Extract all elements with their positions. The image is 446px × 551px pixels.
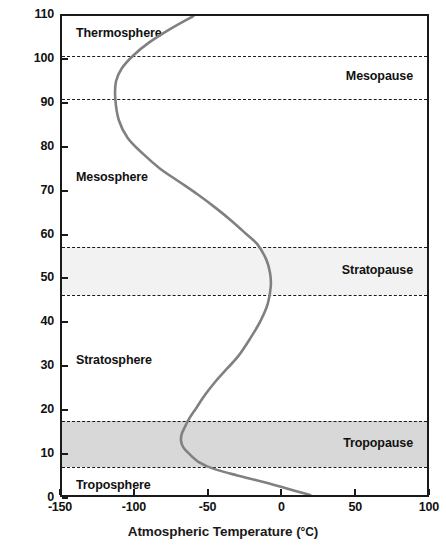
- y-tick-label: 110: [20, 7, 54, 21]
- y-tick-label: 80: [20, 139, 54, 153]
- atmospheric-temperature-chart: Height above earth's surface (km) 010203…: [0, 0, 446, 551]
- temperature-curve-svg: [62, 16, 427, 495]
- x-tick-label: -50: [178, 500, 238, 514]
- x-tick-mark: [354, 489, 356, 495]
- x-tick-label: 0: [251, 500, 311, 514]
- y-tick-label: 30: [20, 358, 54, 372]
- x-tick-mark: [59, 489, 61, 495]
- x-axis-title-text: Atmospheric Temperature (: [128, 524, 301, 539]
- plot-area: ThermosphereMesopauseMesosphereStratopau…: [60, 14, 429, 497]
- x-axis-title: Atmospheric Temperature (°C): [0, 524, 446, 539]
- x-tick-label: 100: [399, 500, 446, 514]
- y-tick-mark: [62, 409, 68, 411]
- x-axis-title-close: ): [314, 524, 318, 539]
- y-tick-label: 60: [20, 227, 54, 241]
- y-tick-label: 20: [20, 402, 54, 416]
- x-tick-mark: [133, 489, 135, 495]
- y-tick-mark: [62, 497, 68, 499]
- y-tick-label: 70: [20, 183, 54, 197]
- y-tick-mark: [62, 14, 68, 16]
- y-tick-label: 40: [20, 314, 54, 328]
- x-axis-unit: °C: [301, 525, 314, 539]
- y-tick-label: 50: [20, 270, 54, 284]
- y-tick-mark: [62, 234, 68, 236]
- y-tick-mark: [62, 102, 68, 104]
- y-tick-label: 90: [20, 95, 54, 109]
- y-tick-mark: [62, 277, 68, 279]
- y-tick-mark: [62, 58, 68, 60]
- y-tick-mark: [62, 190, 68, 192]
- x-tick-label: -150: [30, 500, 90, 514]
- y-tick-label: 10: [20, 446, 54, 460]
- y-tick-mark: [62, 365, 68, 367]
- y-tick-mark: [62, 453, 68, 455]
- y-tick-label: 100: [20, 51, 54, 65]
- x-tick-label: -100: [104, 500, 164, 514]
- y-tick-mark: [62, 321, 68, 323]
- x-tick-mark: [280, 489, 282, 495]
- y-tick-mark: [62, 146, 68, 148]
- temperature-curve: [115, 16, 310, 495]
- x-tick-mark: [428, 489, 430, 495]
- x-tick-label: 50: [325, 500, 385, 514]
- x-tick-mark: [207, 489, 209, 495]
